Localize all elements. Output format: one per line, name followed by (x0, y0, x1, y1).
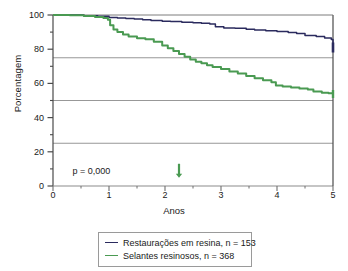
y-tick-label: 100 (18, 10, 44, 20)
y-tick-label: 60 (18, 78, 44, 88)
x-axis-title: Anos (0, 205, 348, 216)
y-tick-label: 0 (18, 181, 44, 191)
x-tick-label: 3 (210, 190, 232, 200)
median-arrow-head (176, 174, 182, 178)
legend-item-selantes: Selantes resinosos, n = 368 (105, 249, 245, 262)
chart-legend: Restaurações em resina, n = 153 Selantes… (98, 232, 252, 267)
x-tick-label: 5 (322, 190, 344, 200)
y-tick-label: 80 (18, 44, 44, 54)
chart-plot-area: Porcentagem 020406080100 012345 Anos p =… (0, 0, 348, 225)
x-tick-label: 4 (266, 190, 288, 200)
series-line-restauracoes (53, 15, 333, 47)
x-tick-label: 1 (98, 190, 120, 200)
x-tick-label: 0 (42, 190, 64, 200)
chart-root: Porcentagem 020406080100 012345 Anos p =… (0, 0, 348, 271)
p-value-annotation: p = 0,000 (73, 166, 111, 176)
y-tick-label: 20 (18, 147, 44, 157)
y-tick-label: 40 (18, 113, 44, 123)
legend-label: Restaurações em resina, n = 153 (123, 238, 256, 248)
series-line-selantes (53, 15, 333, 94)
legend-swatch-line (105, 255, 118, 256)
x-tick-label: 2 (154, 190, 176, 200)
legend-item-restauracoes: Restaurações em resina, n = 153 (105, 236, 245, 249)
legend-label: Selantes resinosos, n = 368 (123, 251, 234, 261)
y-axis-tick-labels: 020406080100 (18, 0, 44, 225)
legend-swatch-line (105, 242, 118, 243)
